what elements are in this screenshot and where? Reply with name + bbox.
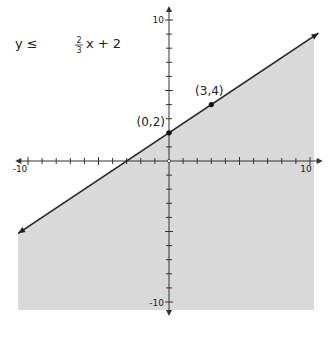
origin-marker bbox=[167, 159, 170, 162]
point-marker bbox=[166, 130, 171, 135]
y-min-label: -10 bbox=[149, 298, 164, 308]
fraction-denominator: 3 bbox=[76, 46, 81, 55]
point-label: (0,2) bbox=[137, 115, 165, 129]
point-marker bbox=[209, 102, 214, 107]
fraction-numerator: 2 bbox=[76, 36, 81, 45]
point-label: (3,4) bbox=[195, 84, 223, 98]
inequality-graph: (0,2)(3,4) y ≤ 2 3 x + 2 -10 10 10 -10 bbox=[0, 0, 333, 340]
y-axis-up-arrow-icon bbox=[166, 6, 172, 12]
x-max-label: 10 bbox=[300, 164, 312, 174]
inequality-rhs: x + 2 bbox=[86, 36, 121, 51]
shaded-region bbox=[18, 36, 314, 310]
inequality-lhs: y ≤ bbox=[15, 36, 38, 51]
x-axis-right-arrow-icon bbox=[317, 158, 323, 164]
y-max-label: 10 bbox=[153, 15, 165, 25]
y-axis-down-arrow-icon bbox=[166, 310, 172, 316]
x-min-label: -10 bbox=[13, 164, 28, 174]
